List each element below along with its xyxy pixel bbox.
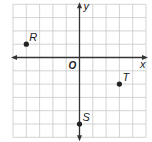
y-axis-down-arrow-icon	[77, 135, 82, 141]
y-axis-label: y	[83, 0, 91, 12]
point-r-label: R	[29, 31, 37, 43]
coordinate-plane: x y O R T S	[0, 0, 152, 142]
point-s-label: S	[83, 111, 91, 123]
point-s-marker	[77, 121, 82, 126]
point-r-marker	[24, 42, 29, 47]
origin-label: O	[69, 60, 77, 71]
y-axis-up-arrow-icon	[77, 2, 82, 8]
point-t-label: T	[122, 71, 130, 83]
x-axis-label: x	[139, 58, 146, 70]
x-axis-left-arrow-icon	[11, 55, 17, 60]
point-t-marker	[117, 82, 122, 87]
